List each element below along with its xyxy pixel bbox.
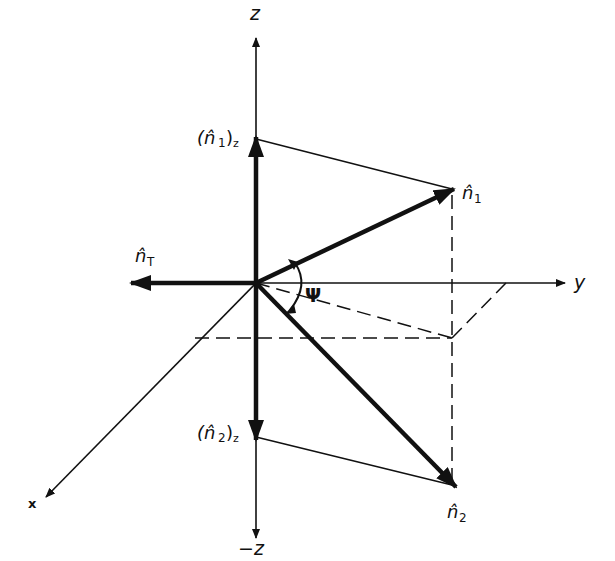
n1-label: n̂ 1 xyxy=(462,182,482,206)
n2z-label-sub2: z xyxy=(233,432,239,445)
n1z-label-sub2: z xyxy=(233,137,239,150)
n1-label-subscript: 1 xyxy=(474,192,482,206)
vector-diagram: Ψ z −z y x n̂ 1 n̂ 2 n̂ T (n̂ 1 ) z (n̂ … xyxy=(0,0,615,561)
x-axis xyxy=(46,283,256,497)
n2z-label-open: (n̂ xyxy=(197,422,215,443)
z-axis-label: z xyxy=(249,2,261,24)
n1-label-symbol: n̂ xyxy=(462,182,473,203)
n2-label: n̂ 2 xyxy=(447,501,467,525)
n2-label-symbol: n̂ xyxy=(447,501,458,522)
parallel-y-dashed xyxy=(452,283,506,338)
nT-label: n̂ T xyxy=(135,245,155,269)
n1z-label-open: (n̂ xyxy=(197,127,215,148)
n1z-to-n1-line xyxy=(256,139,452,189)
n2-label-subscript: 2 xyxy=(459,511,467,525)
n1z-label-sub1: 1 xyxy=(218,136,226,150)
n2z-label-sub1: 2 xyxy=(218,431,226,445)
angle-psi-label: Ψ xyxy=(305,284,321,306)
n1z-label: (n̂ 1 ) z xyxy=(197,127,239,150)
n2z-to-n2-line xyxy=(256,437,456,486)
n2z-label: (n̂ 2 ) z xyxy=(197,422,239,445)
nT-label-symbol: n̂ xyxy=(135,245,146,266)
n1z-label-close: ) xyxy=(226,127,233,148)
nT-label-subscript: T xyxy=(146,255,155,269)
angle-arc xyxy=(290,263,301,310)
labels: z −z y x n̂ 1 n̂ 2 n̂ T (n̂ 1 ) z (n̂ 2 … xyxy=(28,2,586,559)
y-axis-label: y xyxy=(573,271,586,293)
neg-z-axis-label: −z xyxy=(238,537,265,559)
n1-vector xyxy=(256,189,454,283)
x-axis-label: x xyxy=(28,496,37,511)
n2z-label-close: ) xyxy=(226,422,233,443)
